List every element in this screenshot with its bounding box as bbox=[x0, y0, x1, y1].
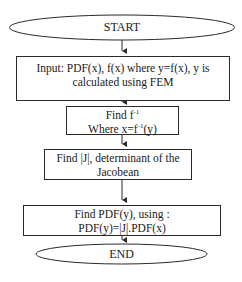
input-line2: calculated using FEM bbox=[73, 75, 174, 89]
inverse-line1: Find f-1 bbox=[106, 108, 140, 122]
jacobian-box: Find |J|, determinant of the Jacobean bbox=[44, 149, 192, 180]
pdf-y-line2: PDF(y)=|J|.PDF(x) bbox=[78, 221, 165, 235]
pdf-y-box: Find PDF(y), using : PDF(y)=|J|.PDF(x) bbox=[23, 205, 221, 236]
input-box: Input: PDF(x), f(x) where y=f(x), y is c… bbox=[16, 56, 230, 101]
start-label: START bbox=[9, 15, 235, 40]
inverse-line2: Where x=f-1(y) bbox=[88, 122, 157, 136]
pdf-y-line1: Find PDF(y), using : bbox=[74, 207, 169, 221]
end-text: END bbox=[109, 247, 134, 262]
jacobian-line1: Find |J|, determinant of the bbox=[56, 151, 179, 165]
flowchart-connectors bbox=[0, 0, 242, 282]
input-line1: Input: PDF(x), f(x) where y=f(x), y is bbox=[36, 61, 209, 75]
start-text: START bbox=[104, 20, 140, 35]
end-label: END bbox=[36, 244, 207, 264]
jacobian-line2: Jacobean bbox=[97, 165, 139, 179]
inverse-box: Find f-1 Where x=f-1(y) bbox=[66, 106, 179, 135]
